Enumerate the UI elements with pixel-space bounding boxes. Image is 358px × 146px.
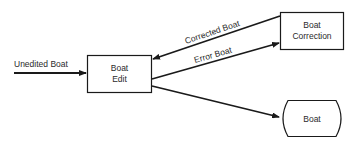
data-flow-diagram: Unedited Boat Boat Edit Boat Correction … — [0, 0, 358, 146]
boat-edit-line1: Boat — [111, 63, 129, 73]
edge-unedited-boat: Unedited Boat — [14, 59, 86, 73]
node-boat-storage: Boat — [283, 101, 341, 137]
node-boat-correction: Boat Correction — [281, 13, 344, 50]
boat-edit-line2: Edit — [112, 74, 127, 84]
boat-correction-line2: Correction — [292, 31, 331, 41]
edge-to-boat-storage — [152, 86, 279, 117]
edge-error-boat: Error Boat — [152, 43, 279, 79]
arrow-to-boat-storage — [152, 86, 279, 117]
boat-correction-line1: Boat — [303, 20, 321, 30]
node-boat-edit: Boat Edit — [88, 56, 152, 93]
label-unedited-boat: Unedited Boat — [14, 59, 69, 69]
boat-storage-label: Boat — [303, 114, 321, 124]
